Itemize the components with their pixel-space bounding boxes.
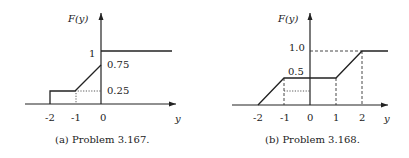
- plot-b-ylabel: F(y): [277, 13, 298, 24]
- plot-a-val-1: 1: [89, 48, 95, 59]
- plot-a-val-025: 0.25: [107, 85, 129, 96]
- plot-b-tick-2: 2: [359, 112, 365, 123]
- plot-b-tick-m2: -2: [253, 112, 263, 123]
- plot-b-tick-0: 0: [307, 112, 313, 123]
- plot-a-val-075: 0.75: [107, 59, 129, 70]
- plot-b-xlabel: y: [383, 113, 390, 124]
- plot-b-val-05: 0.5: [288, 66, 304, 77]
- plot-b-caption: (b) Problem 3.168.: [265, 134, 360, 145]
- plot-b-tick-m1: -1: [280, 112, 290, 123]
- plot-a-tick-0: 0: [100, 112, 106, 123]
- plot-a-caption: (a) Problem 3.167.: [55, 134, 149, 145]
- plot-a-tick-m1: -1: [71, 112, 81, 123]
- plot-a-ylabel: F(y): [67, 13, 88, 24]
- plot-a-tick-m2: -2: [45, 112, 55, 123]
- plot-b: F(y) y -2 -1 0 1 2 1.0 0.5 (b) Problem 3…: [232, 13, 390, 145]
- plot-a-cdf-curve: [50, 65, 101, 104]
- figure: F(y) y -2 -1 0 1 0.75 0.25 (a) Problem 3…: [0, 0, 409, 158]
- plot-a: F(y) y -2 -1 0 1 0.75 0.25 (a) Problem 3…: [25, 13, 181, 145]
- plot-b-cdf-curve: [258, 51, 388, 105]
- plot-a-xlabel: y: [174, 113, 181, 124]
- plot-b-val-10: 1.0: [289, 42, 305, 53]
- plot-b-tick-1: 1: [333, 112, 339, 123]
